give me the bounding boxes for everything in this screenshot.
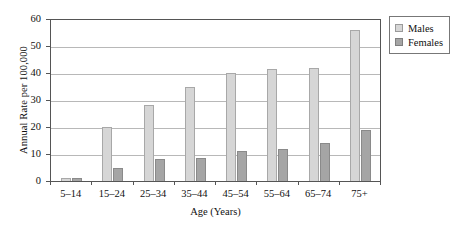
- x-tick-label: 5–14: [50, 188, 91, 199]
- bar-chart-figure: Annual Rate per 100,000 0102030405060 5–…: [0, 0, 464, 229]
- legend-label: Females: [408, 37, 443, 48]
- legend-label: Males: [408, 23, 434, 34]
- x-tick-mark: [50, 181, 51, 185]
- x-tick-mark: [339, 181, 340, 185]
- males-swatch-icon: [395, 24, 403, 32]
- legend-item-females[interactable]: Females: [395, 35, 443, 49]
- x-tick-label: 15–24: [91, 188, 132, 199]
- x-tick-label: 75+: [339, 188, 380, 199]
- legend-item-males[interactable]: Males: [395, 21, 443, 35]
- x-tick-mark: [215, 181, 216, 185]
- females-swatch-icon: [395, 38, 403, 46]
- chart-legend: MalesFemales: [389, 16, 450, 54]
- x-tick-mark: [133, 181, 134, 185]
- x-tick-mark: [256, 181, 257, 185]
- x-tick-label: 45–54: [215, 188, 256, 199]
- x-tick-label: 25–34: [133, 188, 174, 199]
- x-tick-mark: [91, 181, 92, 185]
- x-tick-mark: [380, 181, 381, 185]
- x-tick-label: 35–44: [174, 188, 215, 199]
- x-tick-mark: [298, 181, 299, 185]
- x-tick-label: 65–74: [298, 188, 339, 199]
- x-axis-title: Age (Years): [50, 206, 381, 217]
- x-tick-mark: [174, 181, 175, 185]
- x-tick-label: 55–64: [256, 188, 297, 199]
